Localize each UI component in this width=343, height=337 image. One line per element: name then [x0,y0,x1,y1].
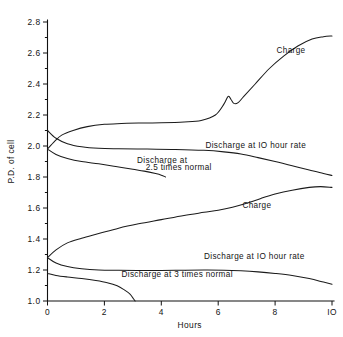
chart-figure: 2.82.62.42.22.01.81.61.41.21.0 02468IO C… [0,0,343,337]
y-axis-title: P.D. of cell [6,139,16,183]
battery-pd-line-chart: 2.82.62.42.22.01.81.61.41.21.0 02468IO C… [0,0,343,337]
label-discharge-10hr-lower: Discharge at IO hour rate [204,252,305,261]
y-tick-label: 1.6 [28,203,41,213]
y-tick-label: 2.6 [28,48,41,58]
y-tick-label: 2.4 [28,79,41,89]
y-tick-label: 2.0 [28,141,41,151]
y-tick-label: 1.0 [28,296,41,306]
label-charge-lower: Charge [242,201,271,210]
x-tick-label: 2 [102,307,107,317]
x-tick-label: 0 [45,307,50,317]
y-tick-label: 1.4 [28,234,41,244]
x-tick-label: 8 [273,307,278,317]
x-tick-label: 4 [159,307,164,317]
y-tick-label: 1.2 [28,265,41,275]
label-discharge-2p5-line2: 2.5 times normal [146,163,212,172]
label-charge-upper: Charge [277,46,306,55]
x-tick-label: IO [327,307,337,317]
y-axis-ticks: 2.82.62.42.22.01.81.61.41.21.0 [28,17,48,306]
x-tick-label: 6 [216,307,221,317]
y-tick-label: 2.2 [28,110,41,120]
y-tick-label: 2.8 [28,17,41,27]
curve-charge-lower [48,187,333,258]
x-axis-ticks: 02468IO [45,301,337,317]
y-tick-label: 1.8 [28,172,41,182]
x-axis-title: Hours [178,320,202,330]
label-discharge-3x: Discharge at 3 times normal [121,270,232,279]
label-discharge-10hr-upper: Discharge at IO hour rate [205,141,306,150]
